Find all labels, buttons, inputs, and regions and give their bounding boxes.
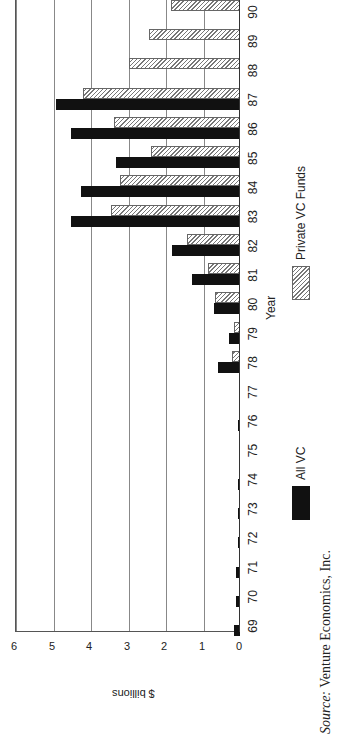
x-tick-label: 85 <box>246 148 260 168</box>
x-tick-label: 86 <box>246 119 260 139</box>
legend-swatch-private-vc <box>292 266 310 300</box>
x-tick-label: 88 <box>246 60 260 80</box>
bar-all-vc <box>172 245 240 256</box>
bar-private-vc <box>187 234 240 245</box>
x-tick-label: 79 <box>246 324 260 344</box>
y-tick-label: 5 <box>44 640 60 652</box>
bar-all-vc <box>56 99 241 110</box>
source-text: Venture Economics, Inc. <box>318 550 333 691</box>
y-tick-label: 3 <box>119 640 135 652</box>
plot-area <box>15 0 240 632</box>
x-tick-label: 76 <box>246 411 260 431</box>
gridline <box>16 0 17 631</box>
bar-private-vc <box>149 29 240 40</box>
x-tick-label: 69 <box>246 616 260 636</box>
bar-private-vc <box>114 117 240 128</box>
bar-all-vc <box>218 362 240 373</box>
x-axis-line <box>239 0 240 632</box>
x-tick-label: 77 <box>246 382 260 402</box>
bar-private-vc <box>151 146 240 157</box>
bar-private-vc <box>215 292 240 303</box>
source-note: Source: Venture Economics, Inc. <box>318 550 334 734</box>
bar-all-vc <box>71 216 241 227</box>
x-tick-label: 82 <box>246 236 260 256</box>
y-tick-label: 4 <box>81 640 97 652</box>
bar-all-vc <box>214 303 240 314</box>
legend-label-private-vc: Private VC Funds <box>294 166 308 260</box>
x-tick-label: 87 <box>246 90 260 110</box>
bar-all-vc <box>81 186 240 197</box>
x-tick-label: 83 <box>246 207 260 227</box>
x-tick-label: 71 <box>246 558 260 578</box>
x-tick-label: 81 <box>246 265 260 285</box>
legend-swatch-all-vc <box>292 486 310 520</box>
y-tick-label: 2 <box>156 640 172 652</box>
x-tick-label: 84 <box>246 177 260 197</box>
bar-private-vc <box>120 175 240 186</box>
bar-all-vc <box>71 128 241 139</box>
x-tick-label: 73 <box>246 499 260 519</box>
bar-private-vc <box>111 205 240 216</box>
legend-label-all-vc: All VC <box>294 447 308 480</box>
y-tick-label: 0 <box>231 640 247 652</box>
x-tick-label: 75 <box>246 441 260 461</box>
bar-private-vc <box>208 263 240 274</box>
x-tick-label: 72 <box>246 528 260 548</box>
bar-private-vc <box>83 88 241 99</box>
bar-private-vc <box>129 58 240 69</box>
y-axis-label: $ billions <box>112 680 155 700</box>
x-tick-label: 89 <box>246 31 260 51</box>
bar-private-vc <box>171 0 240 11</box>
y-tick-label: 1 <box>194 640 210 652</box>
x-tick-label: 74 <box>246 470 260 490</box>
x-tick-label: 70 <box>246 587 260 607</box>
x-axis-label: Year <box>264 296 278 320</box>
bar-all-vc <box>192 274 240 285</box>
bar-all-vc <box>116 157 241 168</box>
y-tick-label: 6 <box>6 640 22 652</box>
x-tick-label: 90 <box>246 2 260 22</box>
gridline <box>54 0 55 631</box>
source-prefix: Source: <box>318 691 333 734</box>
chart: 0123456 69707172737475767778798081828384… <box>0 0 338 740</box>
x-tick-label: 80 <box>246 294 260 314</box>
x-tick-label: 78 <box>246 353 260 373</box>
